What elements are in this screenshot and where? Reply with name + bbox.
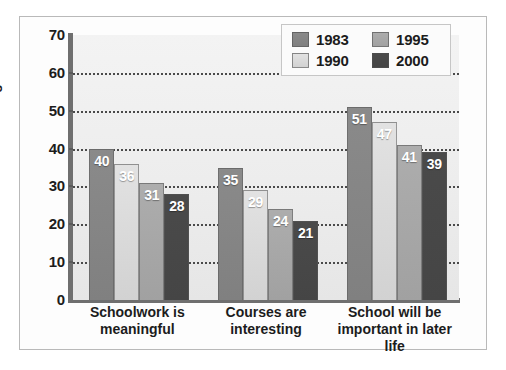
bar-value-label: 47 [373, 126, 396, 142]
legend-swatch-1983 [292, 32, 309, 47]
legend-item-1995[interactable]: 1995 [372, 31, 442, 48]
bar-1990-group-2[interactable]: 29 [243, 190, 268, 300]
bar-1995-group-2[interactable]: 24 [268, 209, 293, 300]
category-label-line: important in later life [330, 321, 459, 355]
category-label-1: Schoolwork ismeaningful [73, 304, 202, 355]
chart-figure: Percentage 010203040506070 4036312835292… [0, 0, 506, 370]
bar-group-1: 40363128 [73, 35, 204, 300]
y-tick-label-70: 70 [31, 26, 65, 43]
bar-1990-group-3[interactable]: 47 [372, 122, 397, 300]
category-label-2: Courses areinteresting [202, 304, 331, 355]
bar-2000-group-1[interactable]: 28 [164, 194, 189, 300]
bar-value-label: 21 [294, 225, 317, 241]
category-label-3: School will beimportant in later life [330, 304, 459, 355]
category-label-line: School will be [330, 304, 459, 321]
legend-label-2000: 2000 [396, 52, 429, 69]
bar-1995-group-1[interactable]: 31 [139, 183, 164, 300]
y-tick-label-50: 50 [31, 102, 65, 119]
bar-2000-group-3[interactable]: 39 [422, 152, 447, 300]
bar-1983-group-2[interactable]: 35 [218, 168, 243, 301]
bar-value-label: 29 [244, 194, 267, 210]
bar-value-label: 35 [219, 172, 242, 188]
y-tick-label-0: 0 [31, 291, 65, 308]
bar-value-label: 40 [90, 153, 113, 169]
y-axis-title: Percentage [0, 77, 2, 152]
legend-swatch-1990 [292, 53, 309, 68]
legend-label-1983: 1983 [316, 31, 349, 48]
y-tick-label-10: 10 [31, 253, 65, 270]
legend-item-1983[interactable]: 1983 [292, 31, 362, 48]
legend-swatch-1995 [372, 32, 389, 47]
y-tick-label-30: 30 [31, 177, 65, 194]
bar-2000-group-2[interactable]: 21 [293, 221, 318, 301]
bar-value-label: 41 [398, 149, 421, 165]
bar-value-label: 51 [348, 111, 371, 127]
legend-item-2000[interactable]: 2000 [372, 52, 442, 69]
category-label-line: Courses are [202, 304, 331, 321]
bar-value-label: 24 [269, 213, 292, 229]
category-label-line: Schoolwork is [73, 304, 202, 321]
bar-value-label: 31 [140, 187, 163, 203]
bar-value-label: 39 [423, 156, 446, 172]
bar-value-label: 36 [115, 168, 138, 184]
bar-1983-group-3[interactable]: 51 [347, 107, 372, 300]
y-tick-label-60: 60 [31, 64, 65, 81]
y-tick-label-20: 20 [31, 215, 65, 232]
x-axis-category-labels: Schoolwork ismeaningfulCourses areintere… [73, 304, 459, 355]
legend-label-1995: 1995 [396, 31, 429, 48]
category-label-line: interesting [202, 321, 331, 338]
legend-swatch-2000 [372, 53, 389, 68]
chart-legend: 1983199519902000 [281, 24, 451, 76]
bar-1995-group-3[interactable]: 41 [397, 145, 422, 300]
category-label-line: meaningful [73, 321, 202, 338]
legend-label-1990: 1990 [316, 52, 349, 69]
bar-1983-group-1[interactable]: 40 [89, 149, 114, 300]
y-tick-label-40: 40 [31, 140, 65, 157]
bar-value-label: 28 [165, 198, 188, 214]
legend-item-1990[interactable]: 1990 [292, 52, 362, 69]
bar-1990-group-1[interactable]: 36 [114, 164, 139, 300]
